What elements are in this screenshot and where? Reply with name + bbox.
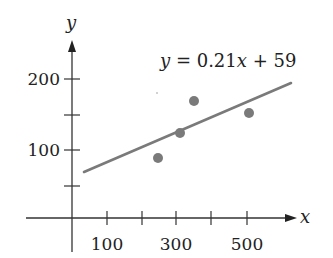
x-tick-label-100: 100 [91,234,123,254]
y-tick-label-200: 200 [28,69,60,89]
equation-intercept: + 59 [247,50,296,71]
y-axis-label: y [65,12,77,33]
equation-coef: = 0.21 [170,50,237,71]
x-axis-label: x [300,206,310,227]
data-point [189,96,199,106]
scatter-chart: 100 300 500 200 100 x y y = 0.21x + 59 [0,0,333,258]
y-axis-arrow-icon [68,40,76,52]
data-point [175,128,185,138]
y-tick-label-100: 100 [28,140,60,160]
equation-annotation: y = 0.21x + 59 [159,50,296,71]
x-tick-label-500: 500 [231,234,263,254]
speck [156,92,158,94]
equation-x: x [237,50,247,71]
data-point [153,153,163,163]
regression-line [84,83,291,172]
x-axis-arrow-icon [285,214,297,222]
data-point [244,108,254,118]
x-tick-label-300: 300 [160,234,192,254]
